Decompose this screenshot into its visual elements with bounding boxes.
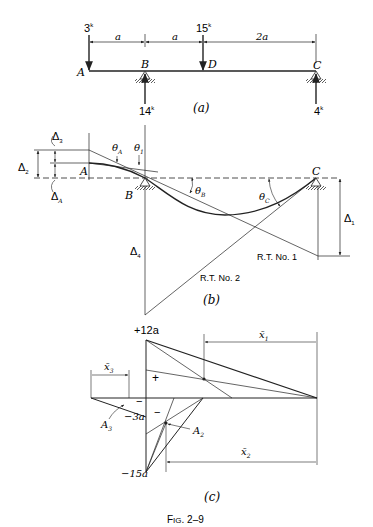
theta-1-label: θ1 bbox=[134, 142, 144, 155]
value-minus-3a: −3a bbox=[124, 411, 145, 422]
x2-label: x̄2 bbox=[241, 446, 251, 459]
point-d: D bbox=[207, 58, 217, 71]
elastic-curve bbox=[89, 163, 316, 215]
theta-c-label: θC bbox=[259, 191, 270, 204]
tangent-rt2 bbox=[145, 178, 316, 315]
panel-b-label: (b) bbox=[203, 293, 220, 307]
figure-caption: FIG. 2–9 bbox=[167, 514, 204, 525]
panel-a-beam-loading: 3k 15k a a 2a A B D C 14k 4k (a) bbox=[76, 22, 326, 117]
point-b-b: B bbox=[124, 189, 133, 202]
value-minus-15a: −15a bbox=[121, 468, 148, 479]
rt1-label: R.T. No. 1 bbox=[257, 252, 297, 262]
panel-c-moment-diagram: +12a + x̄1 x̄3 − −3a A3 − A2 −15a bbox=[91, 324, 317, 504]
delta-a-label: ΔA bbox=[51, 190, 63, 204]
dim-label-dc: 2a bbox=[255, 31, 268, 42]
a3-label: A3 bbox=[100, 419, 112, 432]
reaction-b-label: 14k bbox=[139, 105, 155, 117]
x3-label: x̄3 bbox=[104, 361, 114, 374]
panel-c-label: (c) bbox=[204, 490, 220, 504]
pin-support-c2 bbox=[311, 178, 321, 186]
delta-2-label: Δ2 bbox=[18, 161, 29, 175]
point-a: A bbox=[76, 66, 85, 79]
x1-label: x̄1 bbox=[259, 329, 268, 342]
theta-b-label: θB bbox=[195, 185, 206, 198]
pin-support-b2 bbox=[140, 178, 150, 186]
minus-sign-a3: − bbox=[136, 395, 142, 407]
dim-label-ab: a bbox=[115, 31, 121, 42]
figure-2-9: 3k 15k a a 2a A B D C 14k 4k (a) bbox=[0, 0, 373, 527]
panel-b-elastic-curve: Δ2 Δ3 ΔA A B C Δ1 Δ4 θA θ1 θB θ bbox=[18, 125, 355, 315]
a2-label: A2 bbox=[192, 425, 204, 438]
rt2-label: R.T. No. 2 bbox=[200, 273, 240, 283]
point-c: C bbox=[313, 59, 322, 72]
point-c-b: C bbox=[312, 165, 321, 178]
point-a-b: A bbox=[79, 165, 88, 178]
minus-sign-a2: − bbox=[154, 406, 160, 418]
positive-triangle-top bbox=[146, 340, 317, 398]
value-plus-12a: +12a bbox=[134, 324, 160, 336]
plus-sign: + bbox=[152, 371, 159, 385]
theta-b-arc bbox=[190, 178, 193, 193]
panel-a-label: (a) bbox=[193, 101, 210, 115]
delta-1-label: Δ1 bbox=[344, 212, 355, 226]
delta-4-label: Δ4 bbox=[130, 245, 141, 259]
tangent-rt1 bbox=[89, 150, 318, 256]
theta-a-label: θA bbox=[112, 142, 123, 155]
dim-label-bd: a bbox=[172, 31, 178, 42]
point-b: B bbox=[140, 58, 149, 71]
tangent-at-a bbox=[89, 163, 158, 172]
load-a-label: 3k bbox=[84, 22, 94, 34]
load-d-label: 15k bbox=[196, 22, 212, 34]
reaction-c-label: 4k bbox=[314, 105, 324, 117]
delta-3-label: Δ3 bbox=[52, 130, 63, 144]
